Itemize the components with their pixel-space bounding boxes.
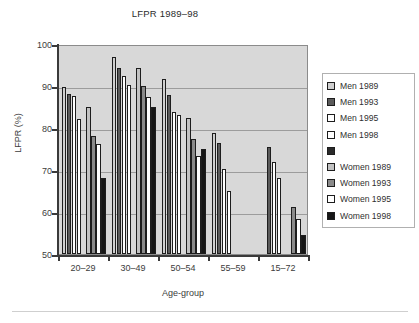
legend-label: Women 1998 bbox=[340, 211, 391, 221]
bar bbox=[196, 156, 201, 254]
bar bbox=[96, 144, 101, 254]
bar bbox=[151, 107, 156, 254]
legend-item[interactable] bbox=[327, 143, 411, 159]
x-axis-tick bbox=[208, 255, 210, 261]
x-axis-tick-label: 20–29 bbox=[70, 263, 95, 273]
legend-item[interactable]: Men 1993 bbox=[327, 94, 411, 110]
bar bbox=[272, 162, 277, 254]
legend-swatch-icon bbox=[327, 179, 335, 187]
bar bbox=[217, 143, 222, 254]
legend-label: Women 1995 bbox=[340, 194, 391, 204]
y-axis-title: LFPR (%) bbox=[13, 98, 23, 168]
bar bbox=[101, 178, 106, 254]
x-axis-tick bbox=[308, 255, 310, 261]
bar bbox=[191, 139, 196, 254]
chart-legend: Men 1989Men 1993Men 1995Men 1998Women 19… bbox=[322, 73, 415, 228]
legend-item[interactable]: Men 1989 bbox=[327, 78, 411, 94]
x-axis-tick bbox=[258, 255, 260, 261]
legend-swatch-icon bbox=[327, 98, 335, 106]
bar bbox=[141, 86, 146, 254]
y-axis-tick-label: 80 bbox=[26, 124, 52, 134]
legend-item[interactable]: Women 1995 bbox=[327, 191, 411, 207]
x-axis-tick bbox=[158, 255, 160, 261]
bar bbox=[186, 118, 191, 254]
y-axis-line bbox=[57, 44, 59, 256]
bar bbox=[91, 136, 96, 254]
x-axis-tick bbox=[108, 255, 110, 261]
plot-area bbox=[58, 45, 308, 255]
x-axis-line bbox=[57, 255, 309, 257]
y-axis-tick bbox=[52, 129, 58, 131]
bar bbox=[201, 149, 206, 254]
bar bbox=[67, 94, 72, 254]
legend-item[interactable]: Women 1993 bbox=[327, 175, 411, 191]
legend-label: Men 1993 bbox=[340, 97, 378, 107]
y-axis-tick bbox=[52, 45, 58, 47]
bar-series-container bbox=[59, 46, 307, 254]
y-axis-tick-label: 90 bbox=[26, 82, 52, 92]
x-axis-tick-label: 55–59 bbox=[220, 263, 245, 273]
bar bbox=[146, 97, 151, 255]
legend-item[interactable]: Women 1989 bbox=[327, 159, 411, 175]
legend-item[interactable]: Women 1998 bbox=[327, 208, 411, 224]
bar bbox=[227, 191, 232, 254]
legend-swatch-icon bbox=[327, 195, 335, 203]
bar bbox=[122, 76, 127, 254]
footer-divider bbox=[12, 311, 408, 312]
y-axis-tick-label: 70 bbox=[26, 166, 52, 176]
bar bbox=[136, 68, 141, 254]
x-axis-tick bbox=[58, 255, 60, 261]
legend-label: Men 1989 bbox=[340, 81, 378, 91]
chart-page: LFPR 1989–98 5060708090100 LFPR (%) 20–2… bbox=[0, 0, 419, 323]
legend-swatch-icon bbox=[327, 114, 335, 122]
legend-label: Men 1998 bbox=[340, 130, 378, 140]
legend-label: Men 1995 bbox=[340, 113, 378, 123]
y-axis-tick-label: 50 bbox=[26, 250, 52, 260]
legend-label: Women 1993 bbox=[340, 178, 391, 188]
y-axis-tick bbox=[52, 87, 58, 89]
bar bbox=[177, 115, 182, 254]
x-axis-title: Age-group bbox=[58, 288, 308, 298]
bar bbox=[162, 79, 167, 254]
y-axis-tick bbox=[52, 213, 58, 215]
x-axis-tick-label: 50–54 bbox=[170, 263, 195, 273]
legend-swatch-icon bbox=[327, 147, 335, 155]
legend-label: Women 1989 bbox=[340, 162, 391, 172]
legend-swatch-icon bbox=[327, 163, 335, 171]
y-axis-tick-label: 100 bbox=[26, 40, 52, 50]
bar bbox=[77, 119, 82, 254]
bar bbox=[296, 219, 301, 254]
bar bbox=[172, 112, 177, 254]
bar bbox=[167, 95, 172, 254]
bar bbox=[212, 133, 217, 254]
x-axis-tick-label: 30–49 bbox=[120, 263, 145, 273]
y-axis-tick-label: 60 bbox=[26, 208, 52, 218]
bar bbox=[277, 178, 282, 254]
legend-item[interactable]: Men 1995 bbox=[327, 110, 411, 126]
bar bbox=[72, 96, 77, 254]
bar bbox=[62, 87, 67, 254]
legend-swatch-icon bbox=[327, 212, 335, 220]
y-axis-tick-labels: 5060708090100 bbox=[20, 0, 52, 323]
y-axis-tick bbox=[52, 171, 58, 173]
bar bbox=[291, 207, 296, 254]
bar bbox=[127, 85, 132, 254]
bar bbox=[86, 107, 91, 254]
bar bbox=[112, 57, 117, 254]
legend-swatch-icon bbox=[327, 82, 335, 90]
legend-item[interactable]: Men 1998 bbox=[327, 127, 411, 143]
x-axis-tick-label: 15–72 bbox=[270, 263, 295, 273]
bar bbox=[267, 147, 272, 254]
bar bbox=[301, 235, 306, 254]
bar bbox=[222, 169, 227, 254]
legend-swatch-icon bbox=[327, 131, 335, 139]
bar bbox=[117, 68, 122, 254]
